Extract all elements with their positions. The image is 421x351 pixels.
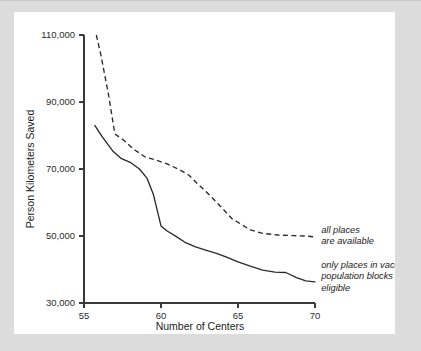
y-axis-ticks: 30,00050,00070,00090,000110,000: [41, 29, 84, 308]
y-axis-title: Person Kilometers Saved: [24, 110, 36, 229]
y-tick-label: 110,000: [41, 29, 75, 40]
y-tick-label: 70,000: [46, 163, 75, 174]
x-tick-label: 70: [310, 310, 321, 321]
annotation-vacant-blocks-line: eligible: [321, 283, 350, 293]
y-tick-label: 90,000: [46, 96, 75, 107]
x-axis-title: Number of Centers: [156, 320, 245, 332]
series-line-vacant-blocks: [95, 125, 315, 281]
series-line-all-places: [96, 35, 315, 237]
x-axis-ticks: 55606570: [79, 303, 321, 321]
y-tick-label: 50,000: [46, 230, 75, 241]
chart-series: [95, 35, 315, 282]
x-tick-label: 55: [79, 310, 90, 321]
chart-annotations: all placesare availableonly places in va…: [320, 225, 395, 293]
annotation-vacant-blocks-line: population blocks are: [320, 271, 395, 281]
annotation-vacant-blocks-line: only places in vacant: [321, 260, 395, 270]
annotation-all-places-line: all places: [321, 225, 360, 235]
annotation-all-places-line: are available: [321, 236, 374, 246]
line-chart: 30,00050,00070,00090,000110,000 55606570…: [14, 12, 395, 334]
y-tick-label: 30,000: [46, 297, 75, 308]
figure-card: 30,00050,00070,00090,000110,000 55606570…: [14, 12, 395, 334]
figure-root: 30,00050,00070,00090,000110,000 55606570…: [0, 0, 421, 351]
chart-axes: [84, 35, 315, 303]
